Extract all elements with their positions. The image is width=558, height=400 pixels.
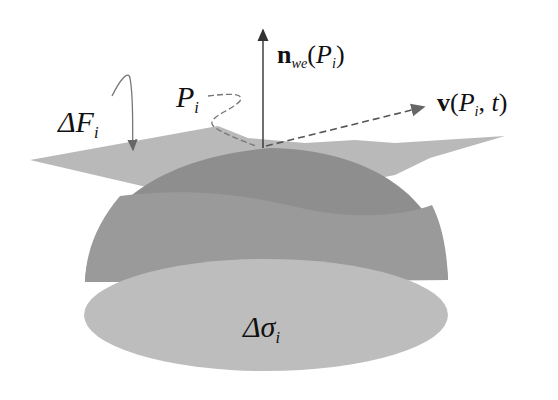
- velocity-open-paren: (: [450, 88, 459, 117]
- velocity-arrow: [266, 107, 424, 146]
- p-i-text: P: [176, 80, 194, 113]
- p-i-label: Pi: [176, 82, 199, 116]
- normal-vector-label: nwe(Pi): [277, 42, 345, 70]
- delta-sigma-subscript: i: [275, 328, 280, 347]
- delta-f-pointer-arrow: [112, 75, 133, 150]
- normal-close-paren: ): [336, 40, 345, 69]
- delta-sigma-text: Δσ: [243, 310, 275, 343]
- velocity-separator: ,: [479, 88, 492, 117]
- p-i-subscript: i: [194, 98, 199, 117]
- normal-arg: P: [316, 40, 332, 69]
- normal-open-paren: (: [307, 40, 316, 69]
- diagram-canvas: ΔFi Pi nwe(Pi) v(Pi, t) Δσi: [0, 0, 558, 400]
- velocity-symbol: v: [437, 88, 450, 117]
- velocity-arg: P: [459, 88, 475, 117]
- velocity-vector-label: v(Pi, t): [437, 90, 507, 118]
- delta-f-text: ΔF: [58, 105, 94, 138]
- delta-f-subscript: i: [94, 123, 99, 142]
- delta-f-label: ΔFi: [58, 107, 99, 141]
- normal-vector-symbol: n: [277, 40, 291, 69]
- normal-vector-subscript: we: [291, 55, 307, 71]
- delta-sigma-label: Δσi: [243, 312, 280, 346]
- velocity-close-paren: ): [499, 88, 508, 117]
- velocity-time: t: [492, 88, 499, 117]
